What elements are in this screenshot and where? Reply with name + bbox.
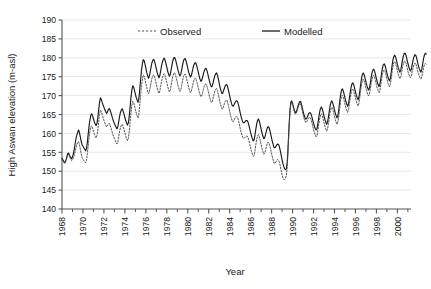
x-tick-label: 1968	[57, 217, 67, 236]
y-axis-title: High Aswan elevation (m-asl)	[6, 53, 17, 176]
y-tick-label: 190	[42, 15, 57, 25]
y-tick-label: 160	[42, 129, 57, 139]
x-tick-label: 1974	[120, 217, 130, 236]
x-tick-label: 1988	[267, 217, 277, 236]
x-tick-label: 1986	[246, 217, 256, 236]
x-tick-label: 1972	[99, 217, 109, 236]
x-axis	[62, 209, 411, 214]
x-tick-label: 1990	[288, 217, 298, 236]
legend-label-observed: Observed	[160, 26, 201, 37]
x-tick-label: 1978	[162, 217, 172, 236]
x-tick-label: 1994	[330, 217, 340, 236]
series-line-observed	[62, 61, 426, 179]
x-tick-label: 1976	[141, 217, 151, 236]
series-lines	[62, 53, 426, 179]
x-tick-label: 1992	[309, 217, 319, 236]
x-tick-label: 1980	[183, 217, 193, 236]
y-tick-label: 170	[42, 91, 57, 101]
y-tick-label: 175	[42, 72, 57, 82]
y-tick-label: 150	[42, 166, 57, 176]
chart-figure: 140145150155160165170175180185190 196819…	[0, 0, 431, 289]
x-axis-title: Year	[225, 266, 244, 277]
grid-lines	[62, 20, 411, 190]
x-tick-label: 1982	[204, 217, 214, 236]
y-tick-label: 155	[42, 148, 57, 158]
line-chart: 140145150155160165170175180185190 196819…	[0, 0, 431, 289]
x-tick-label: 1998	[372, 217, 382, 236]
y-tick-label: 140	[42, 204, 57, 214]
y-tick-label: 185	[42, 34, 57, 44]
x-tick-label: 2000	[393, 217, 403, 236]
legend: ObservedModelled	[138, 26, 323, 37]
y-tick-labels: 140145150155160165170175180185190	[42, 15, 57, 214]
x-tick-label: 1984	[225, 217, 235, 236]
x-tick-labels: 1968197019721974197619781980198219841986…	[57, 217, 402, 236]
y-tick-label: 145	[42, 185, 57, 195]
y-tick-label: 180	[42, 53, 57, 63]
legend-label-modelled: Modelled	[284, 26, 323, 37]
y-tick-label: 165	[42, 110, 57, 120]
y-axis	[59, 20, 63, 209]
x-tick-label: 1996	[351, 217, 361, 236]
x-tick-label: 1970	[78, 217, 88, 236]
